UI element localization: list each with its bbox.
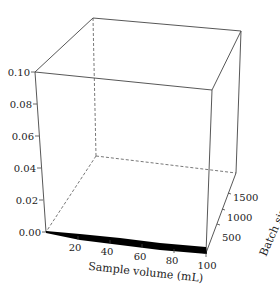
svg-text:40: 40 — [101, 246, 114, 257]
box-hidden-edges — [46, 18, 236, 232]
svg-text:80: 80 — [166, 255, 179, 266]
svg-text:20: 20 — [69, 242, 82, 253]
svg-text:1000: 1000 — [227, 212, 252, 223]
svg-text:60: 60 — [134, 251, 147, 262]
svg-text:0.06: 0.06 — [12, 131, 34, 142]
x-axis-label: Sample volume (mL) — [88, 260, 204, 285]
y-tick-labels: 500 1000 1500 — [222, 192, 258, 243]
svg-text:0.00: 0.00 — [19, 227, 41, 238]
box-edges — [35, 18, 241, 253]
svg-text:100: 100 — [197, 260, 216, 271]
svg-text:0.02: 0.02 — [16, 195, 38, 206]
svg-text:0.04: 0.04 — [14, 163, 36, 174]
svg-text:0.08: 0.08 — [10, 99, 32, 110]
z-axis — [31, 72, 46, 232]
svg-text:500: 500 — [222, 232, 241, 243]
svg-text:0.10: 0.10 — [8, 67, 30, 78]
svg-text:1500: 1500 — [233, 192, 258, 203]
y-axis-label: Batch size (L) — [257, 183, 280, 258]
3d-surface-chart: 0.10 0.08 0.06 0.04 0.02 0.00 20 40 60 8… — [0, 0, 280, 292]
